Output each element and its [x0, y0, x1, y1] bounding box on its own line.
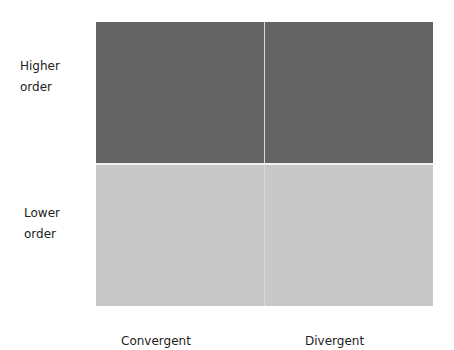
column-label-divergent: Divergent: [305, 334, 364, 348]
row-label-higher-order: Higher order: [20, 56, 60, 98]
row-label-line: order: [24, 224, 60, 245]
quadrant-lower-divergent: [265, 165, 433, 306]
column-label-convergent: Convergent: [121, 334, 191, 348]
row-label-line: order: [20, 77, 60, 98]
quadrant-higher-divergent: [265, 22, 433, 163]
quadrant-higher-convergent: [96, 22, 264, 163]
row-label-line: Lower: [24, 203, 60, 224]
quadrant-grid: [96, 22, 433, 306]
quadrant-lower-convergent: [96, 165, 264, 306]
row-label-line: Higher: [20, 56, 60, 77]
row-label-lower-order: Lower order: [24, 203, 60, 245]
